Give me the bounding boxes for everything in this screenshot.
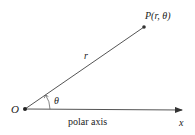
radius-line (25, 27, 144, 109)
radius-label: r (84, 50, 88, 61)
polar-diagram: O θ r P(r, θ) polar axis x (0, 0, 195, 135)
polar-axis-line (25, 109, 182, 110)
angle-label: θ (54, 95, 59, 106)
point-label: P(r, θ) (144, 10, 171, 22)
origin-point (23, 107, 27, 111)
polar-axis-label: polar axis (68, 116, 107, 127)
p-point (142, 25, 146, 29)
origin-label: O (11, 103, 19, 115)
x-axis-label: x (178, 117, 184, 128)
angle-arc (46, 95, 50, 109)
point-label-p: P (144, 10, 151, 21)
point-label-args: (r, θ) (151, 10, 171, 22)
